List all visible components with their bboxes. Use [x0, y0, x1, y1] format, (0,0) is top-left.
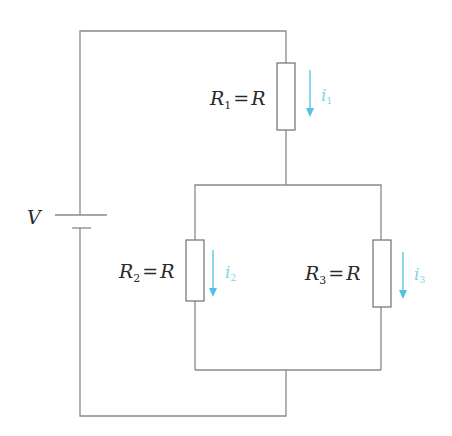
resistor-r2 — [186, 240, 204, 301]
voltage-label: V — [27, 206, 43, 228]
circuit-diagram: V R1=R i1 R2=R i2 R3=R i3 — [0, 0, 452, 436]
battery-symbol — [55, 215, 107, 228]
current-arrow-i1 — [306, 70, 314, 117]
wires — [80, 31, 381, 416]
current-arrow-i3 — [399, 252, 407, 299]
r2-label: R2=R — [118, 260, 175, 285]
r1-label: R1=R — [209, 87, 266, 112]
return-wire — [80, 228, 286, 416]
top-wire — [80, 31, 286, 215]
resistor-r1 — [277, 63, 295, 130]
i2-label: i2 — [225, 262, 236, 283]
i3-label: i3 — [414, 264, 425, 285]
current-arrow-i2 — [209, 250, 217, 297]
resistor-r3 — [373, 240, 391, 307]
i1-label: i1 — [321, 85, 332, 106]
r3-label: R3=R — [304, 262, 361, 287]
parallel-top-wire — [195, 185, 381, 240]
